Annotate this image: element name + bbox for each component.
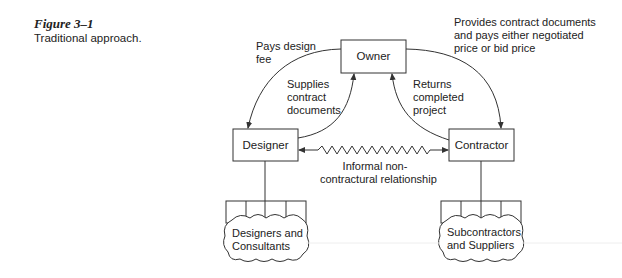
label-informal-relationship: Informal non- contractural relationship [320, 160, 430, 186]
designers-cloud-label: Designers and Consultants [232, 227, 303, 253]
label-provides-contract-documents: Provides contract documents and pays eit… [454, 16, 596, 55]
label-returns-completed-project: Returns completed project [413, 78, 464, 117]
zigzag-informal-relationship [318, 146, 430, 154]
designer-label: Designer [233, 139, 298, 152]
label-pays-design-fee: Pays design fee [256, 40, 316, 66]
subcontractors-cloud-label: Subcontractors and Suppliers [447, 226, 521, 252]
label-supplies-contract-documents: Supplies contract documents [287, 78, 341, 117]
owner-label: Owner [341, 50, 406, 63]
contractor-label: Contractor [449, 139, 514, 152]
